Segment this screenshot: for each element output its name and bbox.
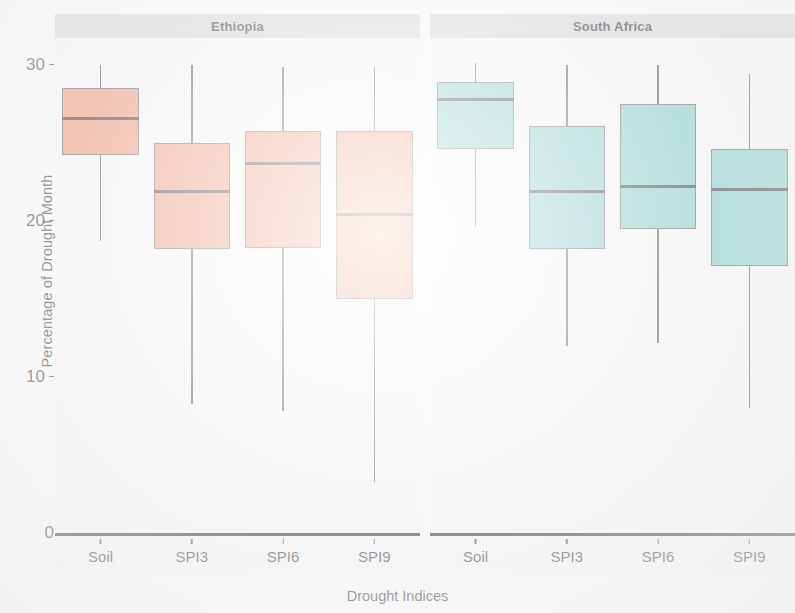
median-line	[62, 117, 139, 120]
x-axis-line	[430, 533, 795, 536]
whisker-upper	[374, 67, 376, 131]
x-axis-line	[55, 533, 420, 536]
x-tick-label: SPI6	[267, 548, 300, 565]
whisker-lower	[749, 266, 751, 408]
x-tick-spi6: SPI6	[642, 539, 675, 565]
x-tick-mark	[100, 539, 102, 544]
y-tick-30: 30	[26, 55, 54, 75]
whisker-lower	[282, 248, 284, 412]
x-tick-label: Soil	[88, 548, 113, 565]
box-iqr	[529, 126, 606, 249]
whisker-lower	[566, 249, 568, 346]
x-tick-spi9: SPI9	[733, 539, 766, 565]
y-tick-0: 0	[45, 523, 54, 543]
x-axis-ticks: SoilSPI3SPI6SPI9	[430, 539, 795, 579]
x-tick-mark	[191, 539, 193, 544]
median-line	[529, 190, 606, 193]
whisker-lower	[475, 149, 477, 227]
x-tick-mark	[374, 539, 376, 544]
boxplot-spi9[interactable]	[329, 38, 420, 574]
whisker-upper	[475, 63, 477, 82]
x-tick-label: SPI6	[642, 548, 675, 565]
x-tick-spi9: SPI9	[358, 539, 391, 565]
x-tick-mark	[282, 539, 284, 544]
box-iqr	[711, 149, 788, 266]
y-tick-mark	[49, 376, 54, 378]
x-tick-label: SPI3	[176, 548, 209, 565]
whisker-lower	[657, 229, 659, 343]
median-line	[437, 98, 514, 101]
x-tick-soil: Soil	[88, 539, 113, 565]
y-tick-20: 20	[26, 211, 54, 231]
x-tick-soil: Soil	[463, 539, 488, 565]
x-tick-mark	[475, 539, 477, 544]
boxplot-spi6[interactable]	[238, 38, 329, 574]
plot-area: SoilSPI3SPI6SPI9	[55, 38, 420, 574]
median-line	[711, 188, 788, 191]
whisker-upper	[100, 65, 102, 88]
panel-strip-label: Ethiopia	[55, 14, 420, 38]
x-tick-spi3: SPI3	[176, 539, 209, 565]
whisker-lower	[100, 155, 102, 241]
boxplot-soil[interactable]	[430, 38, 521, 574]
box-iqr	[245, 131, 322, 248]
whisker-upper	[566, 65, 568, 126]
whisker-lower	[191, 249, 193, 403]
x-tick-mark	[749, 539, 751, 544]
facet-panels: EthiopiaSoilSPI3SPI6SPI9South AfricaSoil…	[55, 14, 795, 574]
whisker-upper	[191, 65, 193, 143]
panel-south-africa: South AfricaSoilSPI3SPI6SPI9	[430, 14, 795, 574]
y-tick-label: 0	[45, 523, 54, 543]
box-iqr	[62, 88, 139, 155]
x-tick-mark	[566, 539, 568, 544]
boxplot-spi3[interactable]	[146, 38, 237, 574]
whisker-upper	[657, 65, 659, 104]
whisker-upper	[749, 74, 751, 149]
median-line	[620, 185, 697, 188]
y-tick-mark	[49, 220, 54, 222]
x-axis-ticks: SoilSPI3SPI6SPI9	[55, 539, 420, 579]
x-axis-title: Drought Indices	[0, 588, 795, 604]
boxplot-spi9[interactable]	[704, 38, 795, 574]
y-axis-ticks: 0102030	[0, 0, 54, 613]
x-tick-spi6: SPI6	[267, 539, 300, 565]
y-tick-label: 10	[26, 367, 45, 387]
box-iqr	[154, 143, 231, 249]
whisker-lower	[374, 299, 376, 482]
x-tick-mark	[657, 539, 659, 544]
x-tick-label: SPI3	[551, 548, 584, 565]
boxplot-figure: Percentage of Drought Month 0102030 Ethi…	[0, 0, 795, 613]
y-tick-mark	[49, 64, 54, 66]
box-iqr	[437, 82, 514, 149]
boxplot-spi3[interactable]	[521, 38, 612, 574]
median-line	[336, 213, 413, 216]
panel-strip-label: South Africa	[430, 14, 795, 38]
x-tick-label: SPI9	[733, 548, 766, 565]
x-tick-label: Soil	[463, 548, 488, 565]
median-line	[154, 190, 231, 193]
x-tick-spi3: SPI3	[551, 539, 584, 565]
box-iqr	[620, 104, 697, 229]
median-line	[245, 162, 322, 165]
boxplot-soil[interactable]	[55, 38, 146, 574]
x-tick-label: SPI9	[358, 548, 391, 565]
panel-ethiopia: EthiopiaSoilSPI3SPI6SPI9	[55, 14, 420, 574]
y-tick-label: 30	[26, 55, 45, 75]
whisker-upper	[282, 67, 284, 131]
boxplot-spi6[interactable]	[613, 38, 704, 574]
plot-area: SoilSPI3SPI6SPI9	[430, 38, 795, 574]
y-tick-10: 10	[26, 367, 54, 387]
y-tick-label: 20	[26, 211, 45, 231]
